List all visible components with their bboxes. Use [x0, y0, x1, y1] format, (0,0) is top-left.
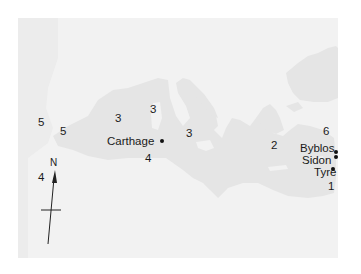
city-label-byblos: Byblos: [300, 143, 335, 155]
city-label-carthage: Carthage: [107, 136, 154, 148]
region-number: 3: [150, 104, 156, 116]
region-number: 5: [38, 117, 44, 129]
black-sea: [286, 46, 338, 102]
region-number: 3: [186, 128, 192, 140]
city-marker-sidon: [334, 155, 338, 159]
region-number: 5: [60, 126, 66, 138]
city-marker-tyre: [331, 167, 335, 171]
region-number: 6: [323, 126, 329, 138]
region-number: 3: [115, 113, 121, 125]
compass-north-label: N: [50, 158, 57, 168]
city-marker-carthage: [160, 139, 164, 143]
region-number: 2: [271, 140, 277, 152]
city-label-sidon: Sidon: [302, 155, 331, 167]
region-number: 4: [145, 153, 151, 165]
region-number: 4: [38, 172, 44, 184]
region-number: 1: [328, 181, 334, 193]
mediterranean-sea: [53, 78, 336, 198]
map-frame: N Carthage Byblos Sidon Tyre 5 5 4 3 3 3…: [18, 18, 338, 258]
city-marker-byblos: [334, 150, 338, 154]
sea-of-marmara: [286, 102, 303, 112]
